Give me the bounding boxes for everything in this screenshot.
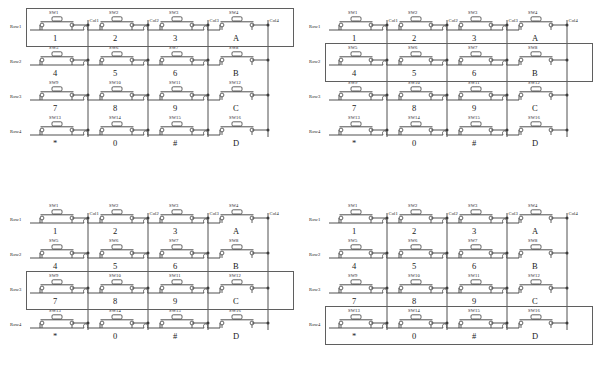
key-label-r3c3: 9 — [472, 297, 476, 306]
key-label-r1c1: 1 — [53, 34, 57, 43]
panel-top-left: Col1Col2Col3Col4Row1Row2Row3Row4SW11SW22… — [0, 0, 299, 193]
key-label-r2c2: 5 — [113, 69, 117, 78]
switch-ref-r2c1: SW5 — [348, 239, 358, 244]
key-label-r3c3: 9 — [173, 104, 177, 113]
switch-ref-r1c3: SW3 — [169, 11, 179, 16]
key-label-r3c2: 8 — [412, 104, 416, 113]
column-label-col1: Col1 — [90, 212, 99, 217]
switch-ref-r2c1: SW5 — [49, 46, 59, 51]
switch-ref-r3c2: SW10 — [109, 274, 121, 279]
switch-ref-r4c4: SW16 — [229, 309, 241, 314]
row-label-row1: Row1 — [10, 25, 21, 30]
row-label-row4: Row4 — [309, 130, 320, 135]
switch-ref-r2c3: SW7 — [169, 46, 179, 51]
key-label-r3c2: 8 — [113, 297, 117, 306]
row-label-row3: Row3 — [309, 288, 320, 293]
switch-ref-r4c2: SW14 — [109, 309, 121, 314]
switch-ref-r3c3: SW11 — [169, 274, 181, 279]
switch-ref-r1c1: SW1 — [49, 11, 59, 16]
switch-ref-r1c3: SW3 — [468, 11, 478, 16]
key-label-r1c1: 1 — [53, 227, 57, 236]
keypad-matrix-schematic — [299, 0, 598, 193]
row-label-row2: Row2 — [10, 60, 21, 65]
row-label-row3: Row3 — [10, 95, 21, 100]
switch-ref-r3c4: SW12 — [528, 274, 540, 279]
switch-ref-r4c4: SW16 — [229, 116, 241, 121]
panel-bottom-left: Col1Col2Col3Col4Row1Row2Row3Row4SW11SW22… — [0, 193, 299, 386]
key-label-r3c3: 9 — [173, 297, 177, 306]
key-label-r2c4: B — [233, 69, 239, 78]
switch-ref-r3c3: SW11 — [169, 81, 181, 86]
diagram-canvas: Col1Col2Col3Col4Row1Row2Row3Row4SW11SW22… — [0, 0, 598, 386]
switch-ref-r3c2: SW10 — [109, 81, 121, 86]
key-label-r1c2: 2 — [412, 227, 416, 236]
row-label-row2: Row2 — [10, 253, 21, 258]
key-label-r1c2: 2 — [113, 227, 117, 236]
switch-ref-r3c1: SW9 — [49, 81, 59, 86]
key-label-r4c3: # — [173, 332, 177, 341]
key-label-r3c1: 7 — [352, 104, 356, 113]
switch-ref-r2c3: SW7 — [468, 239, 478, 244]
key-label-r3c4: C — [233, 297, 239, 306]
column-label-col4: Col4 — [270, 212, 279, 217]
key-label-r4c3: # — [173, 139, 177, 148]
column-label-col3: Col3 — [210, 19, 219, 24]
switch-ref-r4c1: SW13 — [49, 309, 61, 314]
key-label-r2c4: B — [532, 69, 538, 78]
switch-ref-r2c2: SW6 — [109, 239, 119, 244]
key-label-r3c2: 8 — [113, 104, 117, 113]
switch-ref-r4c2: SW14 — [408, 309, 420, 314]
switch-ref-r2c4: SW8 — [528, 46, 538, 51]
switch-ref-r3c2: SW10 — [408, 274, 420, 279]
switch-ref-r3c4: SW12 — [229, 81, 241, 86]
row-label-row4: Row4 — [309, 323, 320, 328]
key-label-r2c1: 4 — [53, 262, 57, 271]
switch-ref-r3c1: SW9 — [49, 274, 59, 279]
switch-ref-r4c4: SW16 — [528, 309, 540, 314]
key-label-r3c1: 7 — [352, 297, 356, 306]
key-label-r1c2: 2 — [412, 34, 416, 43]
switch-ref-r1c4: SW4 — [229, 11, 239, 16]
key-label-r3c4: C — [233, 104, 239, 113]
switch-ref-r4c1: SW13 — [49, 116, 61, 121]
key-label-r2c1: 4 — [352, 262, 356, 271]
column-label-col1: Col1 — [389, 212, 398, 217]
key-label-r3c1: 7 — [53, 297, 57, 306]
switch-ref-r2c4: SW8 — [528, 239, 538, 244]
row-label-row3: Row3 — [309, 95, 320, 100]
key-label-r2c2: 5 — [412, 69, 416, 78]
key-label-r4c4: D — [532, 139, 538, 148]
key-label-r2c2: 5 — [412, 262, 416, 271]
switch-ref-r1c3: SW3 — [169, 204, 179, 209]
key-label-r4c1: * — [53, 332, 57, 341]
column-label-col2: Col2 — [449, 19, 458, 24]
switch-ref-r2c2: SW6 — [109, 46, 119, 51]
switch-ref-r4c2: SW14 — [408, 116, 420, 121]
switch-ref-r4c3: SW15 — [468, 309, 480, 314]
switch-ref-r4c3: SW15 — [169, 116, 181, 121]
key-label-r2c2: 5 — [113, 262, 117, 271]
switch-ref-r2c3: SW7 — [169, 239, 179, 244]
keypad-matrix-schematic — [299, 193, 598, 386]
switch-ref-r4c4: SW16 — [528, 116, 540, 121]
key-label-r4c1: * — [352, 139, 356, 148]
switch-ref-r1c1: SW1 — [348, 204, 358, 209]
row-label-row2: Row2 — [309, 253, 320, 258]
key-label-r1c1: 1 — [352, 227, 356, 236]
key-label-r4c2: 0 — [113, 332, 117, 341]
key-label-r4c2: 0 — [412, 332, 416, 341]
switch-ref-r3c1: SW9 — [348, 274, 358, 279]
key-label-r1c4: A — [233, 227, 239, 236]
switch-ref-r1c4: SW4 — [528, 11, 538, 16]
panel-top-right: Col1Col2Col3Col4Row1Row2Row3Row4SW11SW22… — [299, 0, 598, 193]
key-label-r3c2: 8 — [412, 297, 416, 306]
switch-ref-r2c1: SW5 — [348, 46, 358, 51]
switch-ref-r2c2: SW6 — [408, 239, 418, 244]
row-label-row1: Row1 — [309, 25, 320, 30]
key-label-r2c3: 6 — [472, 262, 476, 271]
switch-ref-r3c1: SW9 — [348, 81, 358, 86]
column-label-col3: Col3 — [509, 19, 518, 24]
switch-ref-r4c1: SW13 — [348, 309, 360, 314]
key-label-r4c1: * — [352, 332, 356, 341]
switch-ref-r3c2: SW10 — [408, 81, 420, 86]
